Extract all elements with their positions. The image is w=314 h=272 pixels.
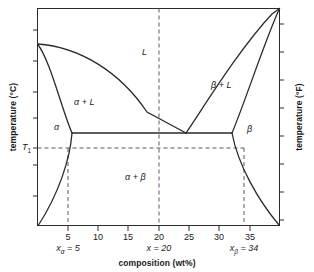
x-tick-label-15: 15	[118, 232, 138, 242]
x-overall-annotation: x = 20	[137, 243, 181, 253]
x-tick-label-5: 5	[58, 232, 78, 242]
x-tick-label-10: 10	[88, 232, 108, 242]
region-label-beta-plus-liquid: β + L	[211, 80, 231, 90]
x-tick-label-25: 25	[179, 232, 199, 242]
x-tick-label-20: 20	[149, 232, 169, 242]
region-label-alpha-plus-beta: α + β	[125, 172, 146, 182]
region-label-alpha: α	[54, 122, 59, 132]
x-beta-annotation: xβ = 34	[222, 243, 266, 255]
phase-diagram-figure: temperature (°C) temperature (°F) compos…	[0, 0, 314, 272]
x-beta-value: = 34	[238, 243, 258, 253]
region-label-beta: β	[247, 124, 252, 134]
x-tick-label-35: 35	[240, 232, 260, 242]
t1-subscript: 1	[28, 147, 32, 154]
left-axis-ticks	[33, 30, 38, 196]
x-alpha-value: = 5	[64, 243, 79, 253]
x-axis-ticks	[68, 226, 250, 232]
region-label-liquid: L	[142, 47, 147, 57]
x-axis-title: composition (wt%)	[77, 258, 237, 268]
region-label-alpha-plus-liquid: α + L	[74, 97, 94, 107]
y-axis-title-celsius: temperature (°C)	[8, 67, 18, 167]
y-axis-title-fahrenheit: temperature (°F)	[294, 67, 304, 167]
right-axis-ticks	[280, 24, 285, 220]
t1-temperature-label: T1	[22, 142, 31, 154]
x-tick-label-30: 30	[209, 232, 229, 242]
x-alpha-annotation: xα = 5	[46, 243, 90, 255]
